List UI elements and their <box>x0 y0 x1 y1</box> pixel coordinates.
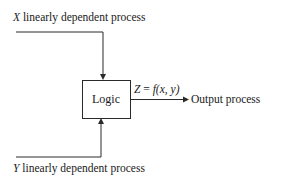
y-input-text: linearly dependent process <box>22 162 145 174</box>
x-variable: X <box>13 11 20 23</box>
x-input-text: linearly dependent process <box>23 11 146 23</box>
output-arrowhead-icon <box>183 97 189 103</box>
formula-eq: = <box>140 83 152 95</box>
formula-args: (x, y) <box>156 83 180 95</box>
logic-label: Logic <box>92 92 120 107</box>
formula-label: Z = f(x, y) <box>134 84 179 96</box>
y-input-label: Y linearly dependent process <box>13 163 145 175</box>
x-input-connector <box>16 32 103 76</box>
y-input-connector <box>16 122 101 157</box>
output-label: Output process <box>191 94 260 106</box>
y-variable: Y <box>13 162 19 174</box>
x-input-label: X linearly dependent process <box>13 12 146 24</box>
logic-block: Logic <box>82 80 130 118</box>
